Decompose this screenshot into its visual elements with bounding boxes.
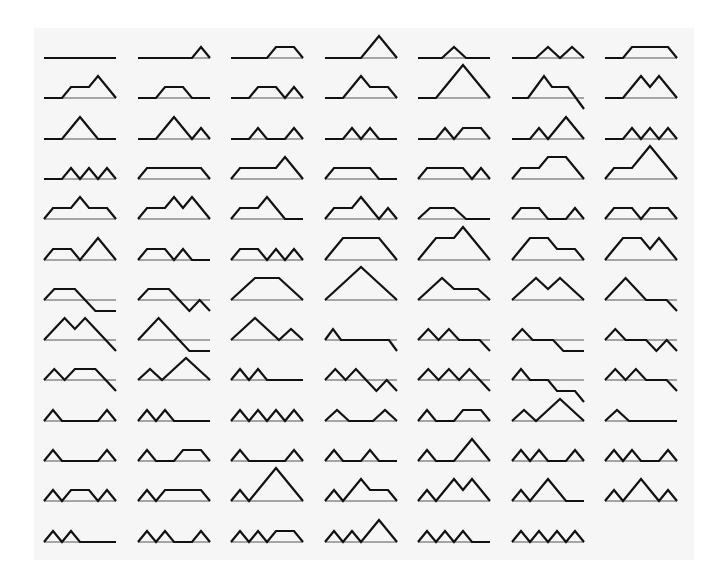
path-glyph [325,477,397,505]
path-glyph [231,316,303,344]
path-glyph [418,356,490,384]
path-glyph [605,316,677,344]
path-glyph [512,518,584,546]
path-glyph [512,276,584,304]
path-glyph [325,115,397,143]
path-glyph [325,34,397,62]
path-glyph [231,115,303,143]
path-glyph [44,195,116,223]
path-glyph [44,316,116,344]
path-glyph [44,356,116,384]
path-glyph [231,437,303,465]
path-glyph [325,74,397,102]
path-glyph [44,74,116,102]
path-glyph [605,477,677,505]
path-glyph [605,236,677,264]
path-glyph [605,437,677,465]
path-glyph [512,316,584,344]
path-glyph [138,477,210,505]
path-glyph [44,236,116,264]
path-glyph [44,477,116,505]
path-glyph [325,195,397,223]
path-glyph [231,518,303,546]
path-glyph [44,397,116,425]
path-glyph [231,276,303,304]
path-glyph [512,437,584,465]
path-glyph [231,477,303,505]
path-glyph [418,518,490,546]
path-glyph [512,356,584,384]
path-glyph [512,195,584,223]
path-glyph [138,74,210,102]
path-glyph [418,477,490,505]
path-glyph [325,276,397,304]
path-glyph [512,397,584,425]
path-glyph [418,115,490,143]
path-glyph [605,34,677,62]
path-glyph [418,437,490,465]
path-glyph [44,115,116,143]
path-glyph [418,316,490,344]
path-glyph [418,155,490,183]
path-glyph [605,115,677,143]
path-glyph [325,397,397,425]
path-glyph [138,155,210,183]
path-glyph [138,236,210,264]
path-glyph [325,356,397,384]
path-glyph [325,155,397,183]
path-glyph [605,195,677,223]
path-glyph [44,155,116,183]
path-glyph [605,276,677,304]
path-glyph [512,34,584,62]
path-glyph [138,316,210,344]
path-glyph [418,34,490,62]
path-glyph [418,236,490,264]
path-glyph [418,397,490,425]
path-glyph [138,115,210,143]
path-glyph [512,155,584,183]
path-glyph [231,356,303,384]
path-glyph [44,34,116,62]
path-glyph [44,437,116,465]
path-glyph [231,74,303,102]
path-glyph [231,195,303,223]
path-glyph [231,236,303,264]
path-glyph [231,397,303,425]
path-glyph [512,477,584,505]
path-glyph [325,236,397,264]
path-glyph [512,236,584,264]
path-glyph [418,74,490,102]
path-glyph [418,276,490,304]
path-glyph [138,195,210,223]
path-glyph [512,74,584,102]
path-glyph [325,316,397,344]
path-glyph [231,155,303,183]
path-glyph [44,276,116,304]
path-glyph [138,437,210,465]
path-glyph [138,34,210,62]
path-glyph [605,74,677,102]
path-glyph [605,397,677,425]
path-glyph [605,356,677,384]
path-glyph [325,437,397,465]
path-glyph [44,518,116,546]
path-glyph [138,356,210,384]
path-glyph [138,518,210,546]
path-glyph [512,115,584,143]
path-glyph [231,34,303,62]
path-glyph [325,518,397,546]
path-glyph [605,155,677,183]
path-glyph [138,397,210,425]
path-glyph [138,276,210,304]
path-glyph [418,195,490,223]
